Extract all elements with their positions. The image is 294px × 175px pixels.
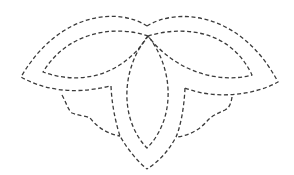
center-inner-petal <box>127 36 168 148</box>
center-outer-right-stem <box>147 88 185 169</box>
inner-right-petal <box>148 31 252 78</box>
left-lower-leaf <box>62 95 120 136</box>
lotus-pattern-drawing <box>0 0 294 175</box>
pattern-canvas <box>0 0 294 175</box>
inner-left-petal <box>43 31 148 78</box>
center-outer-left-stem <box>111 86 147 169</box>
